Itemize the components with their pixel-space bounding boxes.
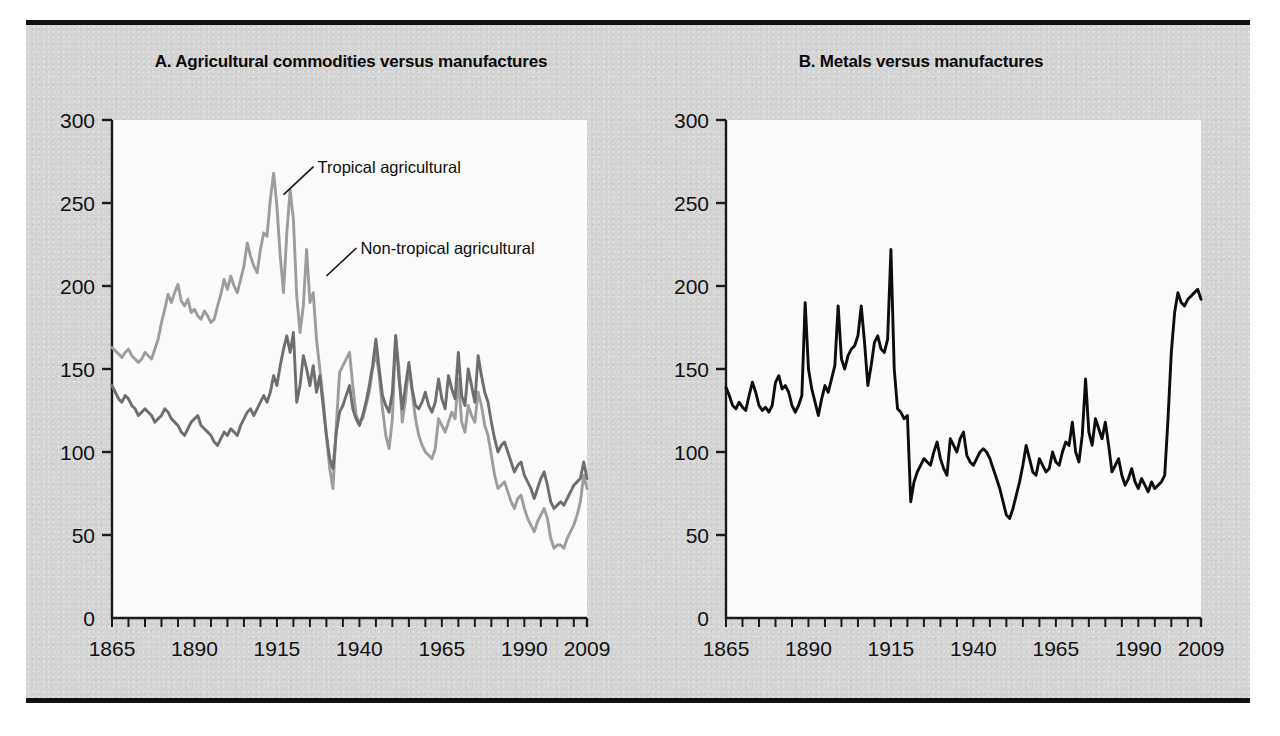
x-axis-tick-label: 1865 (703, 637, 750, 660)
y-axis-tick-label: 0 (83, 607, 95, 630)
x-axis-tick-label: 1990 (501, 637, 548, 660)
y-axis-tick-label: 200 (60, 275, 95, 298)
x-axis-tick-label: 1965 (419, 637, 466, 660)
x-axis-tick-label: 1965 (1033, 637, 1080, 660)
figure-root: A. Agricultural commodities versus manuf… (0, 0, 1280, 736)
y-axis-tick-label: 200 (674, 275, 709, 298)
panel-a-plot: 0501001502002503001865189019151940196519… (26, 24, 640, 700)
y-axis-tick-label: 250 (674, 192, 709, 215)
y-axis-tick-label: 50 (72, 524, 95, 547)
plot-area-background (112, 120, 587, 618)
x-axis-tick-label: 1890 (171, 637, 218, 660)
y-axis-tick-label: 0 (697, 607, 709, 630)
panel-b-plot: 0501001502002503001865189019151940196519… (640, 24, 1250, 700)
x-axis-tick-label: 1940 (950, 637, 997, 660)
y-axis-tick-label: 250 (60, 192, 95, 215)
panel-a: A. Agricultural commodities versus manuf… (26, 24, 640, 700)
x-axis-tick-label: 1890 (785, 637, 832, 660)
y-axis-tick-label: 150 (60, 358, 95, 381)
panel-b: B. Metals versus manufactures 0501001502… (640, 24, 1250, 700)
x-axis-tick-label: 2009 (1178, 637, 1225, 660)
x-axis-tick-label: 1915 (254, 637, 301, 660)
plot-area-background (726, 120, 1201, 618)
x-axis-tick-label: 1865 (89, 637, 136, 660)
series-annotation-label: Tropical agricultural (318, 158, 461, 176)
x-axis-tick-label: 1940 (336, 637, 383, 660)
x-axis-tick-label: 1915 (868, 637, 915, 660)
x-axis-tick-label: 2009 (564, 637, 611, 660)
y-axis-tick-label: 300 (674, 109, 709, 132)
x-axis-tick-label: 1990 (1115, 637, 1162, 660)
y-axis-tick-label: 300 (60, 109, 95, 132)
y-axis-tick-label: 150 (674, 358, 709, 381)
y-axis-tick-label: 100 (674, 441, 709, 464)
y-axis-tick-label: 100 (60, 441, 95, 464)
y-axis-tick-label: 50 (686, 524, 709, 547)
panel-b-svg: 0501001502002503001865189019151940196519… (640, 24, 1250, 700)
series-annotation-label: Non-tropical agricultural (360, 239, 534, 257)
panel-a-svg: 0501001502002503001865189019151940196519… (26, 24, 640, 700)
